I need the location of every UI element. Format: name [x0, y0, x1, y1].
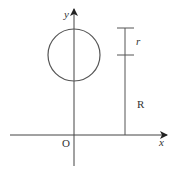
large-radius-label: R: [137, 98, 145, 110]
coordinate-diagram: y x O r R: [0, 0, 179, 173]
small-radius-label: r: [136, 35, 141, 47]
y-axis-label: y: [63, 8, 69, 20]
x-axis-label: x: [158, 136, 164, 148]
origin-label: O: [62, 137, 70, 149]
